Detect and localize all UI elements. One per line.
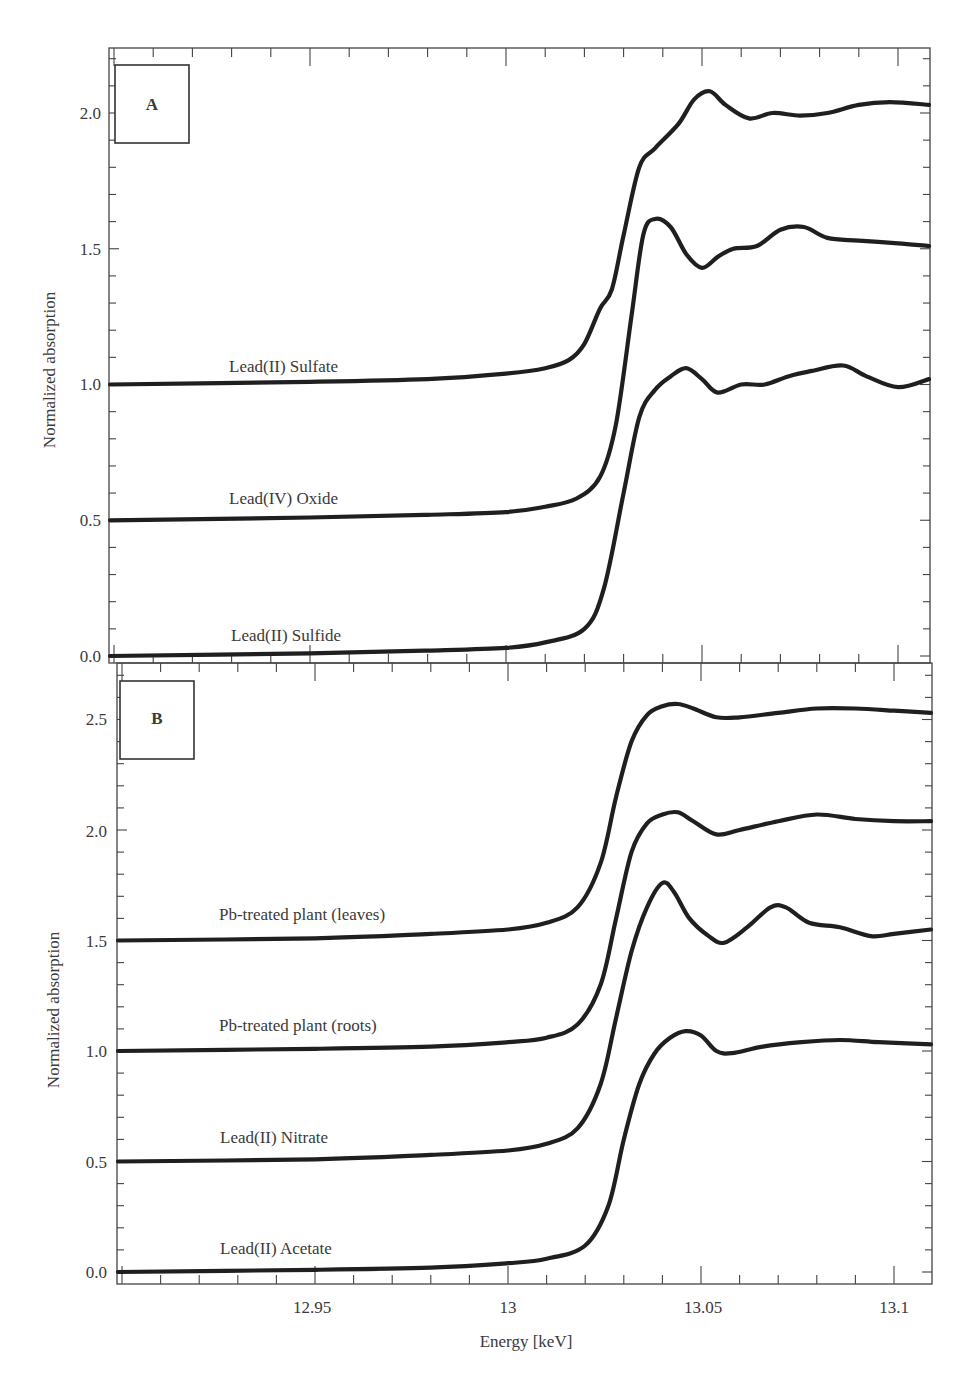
label-lead-ii-sulfate: Lead(II) Sulfate: [229, 357, 338, 376]
panel-a-ytick-3: 1.5: [80, 240, 101, 259]
panel-b-ytick-4: 2.0: [86, 822, 107, 841]
panel-b-ytick-5: 2.5: [86, 710, 107, 729]
label-lead-iv-oxide: Lead(IV) Oxide: [229, 489, 338, 508]
panel-b-ytick-1: 0.5: [86, 1153, 107, 1172]
curve-lead-ii-sulfate: [110, 91, 929, 384]
panel-b-ytick-0: 0.0: [86, 1263, 107, 1282]
panel-b-ytick-3: 1.5: [86, 932, 107, 951]
panel-a: A Normalized absorption Lead(II) Sulfate…: [40, 48, 930, 666]
panel-a-letter: A: [146, 95, 159, 114]
xtick-13-1: 13.1: [879, 1298, 909, 1317]
x-axis-title: Energy [keV]: [480, 1332, 573, 1351]
xtick-12-95: 12.95: [293, 1298, 331, 1317]
panel-b-curves: [118, 704, 931, 1272]
xtick-13: 13: [500, 1298, 517, 1317]
panel-b: B Normalized absorption Pb-treated plant…: [44, 663, 932, 1284]
label-plant-roots: Pb-treated plant (roots): [219, 1016, 377, 1035]
panel-a-ytick-1: 0.5: [80, 511, 101, 530]
label-lead-ii-nitrate: Lead(II) Nitrate: [220, 1128, 328, 1147]
panel-a-ytick-4: 2.0: [80, 104, 101, 123]
label-plant-leaves: Pb-treated plant (leaves): [219, 905, 385, 924]
panel-a-frame: [109, 48, 930, 663]
label-lead-ii-acetate: Lead(II) Acetate: [220, 1239, 332, 1258]
xtick-13-05: 13.05: [684, 1298, 722, 1317]
panel-b-ytick-2: 1.0: [86, 1042, 107, 1061]
xanes-figure: A Normalized absorption Lead(II) Sulfate…: [0, 0, 965, 1382]
chart-canvas: A Normalized absorption Lead(II) Sulfate…: [0, 0, 965, 1382]
label-lead-ii-sulfide: Lead(II) Sulfide: [231, 626, 341, 645]
panel-a-ylabel: Normalized absorption: [40, 291, 59, 448]
panel-a-ytick-2: 1.0: [80, 375, 101, 394]
panel-b-letter: B: [151, 709, 162, 728]
panel-b-ticks: [117, 663, 932, 1284]
panel-b-frame: [117, 663, 932, 1284]
panel-a-ticks: [109, 48, 930, 663]
panel-a-ytick-0: 0.0: [80, 647, 101, 666]
curve-lead-ii-acetate: [118, 1031, 931, 1272]
panel-b-ylabel: Normalized absorption: [44, 931, 63, 1088]
